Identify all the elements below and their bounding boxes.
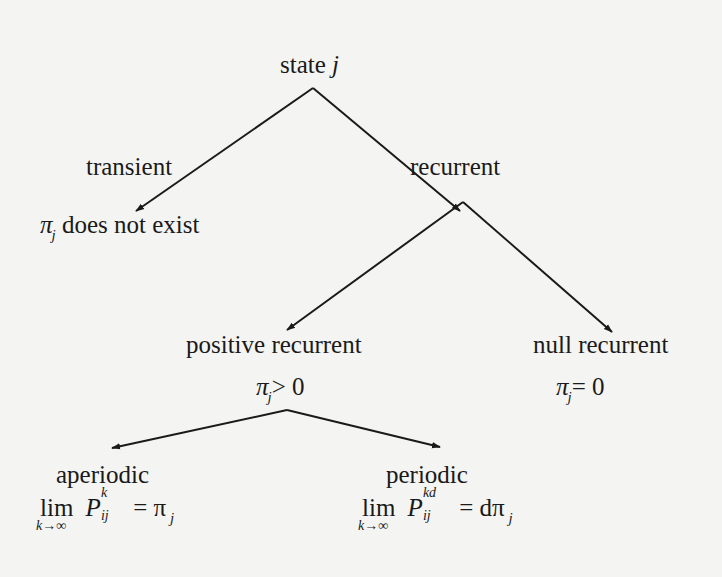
node-recurrent-label: recurrent: [410, 153, 500, 180]
P-symbol: P: [408, 494, 423, 521]
P-superscript: k: [101, 486, 107, 500]
transition-prob: P kd ij: [408, 495, 423, 520]
aperiodic-rhs: = π: [133, 494, 166, 521]
pi-subscript: j: [52, 227, 56, 243]
transient-condition-text: does not exist: [62, 211, 200, 238]
node-state-j: state j: [280, 52, 339, 77]
positive-recurrent-condition: πj> 0: [256, 374, 305, 399]
edges-layer: [0, 0, 722, 577]
null-recurrent-condition: πj= 0: [556, 374, 605, 399]
pi-subscript: j: [268, 389, 272, 405]
edge-positive-to-aperiodic: [112, 410, 287, 448]
periodic-rhs: = dπ: [459, 494, 504, 521]
node-transient: transient: [86, 154, 172, 179]
node-state-label: state: [280, 51, 326, 78]
edge-state-to-transient: [136, 88, 313, 211]
node-transient-label: transient: [86, 153, 172, 180]
edge-positive-to-periodic: [287, 410, 440, 447]
node-recurrent: recurrent: [410, 154, 500, 179]
node-null-recurrent: null recurrent: [533, 332, 668, 357]
node-periodic: periodic: [386, 462, 468, 487]
edge-recurrent-to-null: [463, 202, 612, 332]
P-subscript: ij: [101, 509, 109, 523]
P-subscript: ij: [423, 509, 431, 523]
transient-condition: πj does not exist: [40, 212, 199, 237]
P-superscript: kd: [423, 486, 436, 500]
lim-under: k→∞: [36, 519, 66, 533]
pi-subscript: j: [568, 389, 572, 405]
node-aperiodic: aperiodic: [56, 462, 149, 487]
node-positive-recurrent-label: positive recurrent: [186, 331, 362, 358]
edge-state-to-recurrent: [313, 88, 460, 211]
edge-recurrent-to-positive: [287, 202, 463, 330]
rhs-subscript: j: [509, 510, 513, 526]
pi-symbol: π: [256, 373, 269, 400]
null-condition-text: = 0: [572, 373, 605, 400]
lim-operator: lim k→∞: [40, 495, 73, 520]
periodic-formula: lim k→∞ P kd ij = dπj: [362, 495, 513, 520]
rhs-subscript: j: [170, 510, 174, 526]
pi-symbol: π: [40, 211, 53, 238]
transition-prob: P k ij: [86, 495, 101, 520]
pi-symbol: π: [556, 373, 569, 400]
aperiodic-formula: lim k→∞ P k ij = πj: [40, 495, 174, 520]
node-positive-recurrent: positive recurrent: [186, 332, 362, 357]
lim-text: lim: [40, 494, 73, 521]
state-classification-diagram: state j transient πj does not exist recu…: [0, 0, 722, 577]
node-null-recurrent-label: null recurrent: [533, 331, 668, 358]
node-periodic-label: periodic: [386, 461, 468, 488]
node-state-var: j: [332, 51, 339, 78]
lim-operator: lim k→∞: [362, 495, 395, 520]
lim-text: lim: [362, 494, 395, 521]
positive-condition-text: > 0: [272, 373, 305, 400]
node-aperiodic-label: aperiodic: [56, 461, 149, 488]
P-symbol: P: [86, 494, 101, 521]
lim-under: k→∞: [358, 519, 388, 533]
